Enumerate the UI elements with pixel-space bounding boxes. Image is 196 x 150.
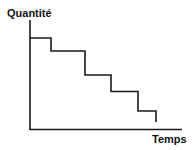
x-axis-label: Temps <box>152 133 187 145</box>
step-line <box>30 38 156 122</box>
step-chart: Quantité Temps <box>0 0 196 150</box>
y-axis-label: Quantité <box>7 7 52 19</box>
